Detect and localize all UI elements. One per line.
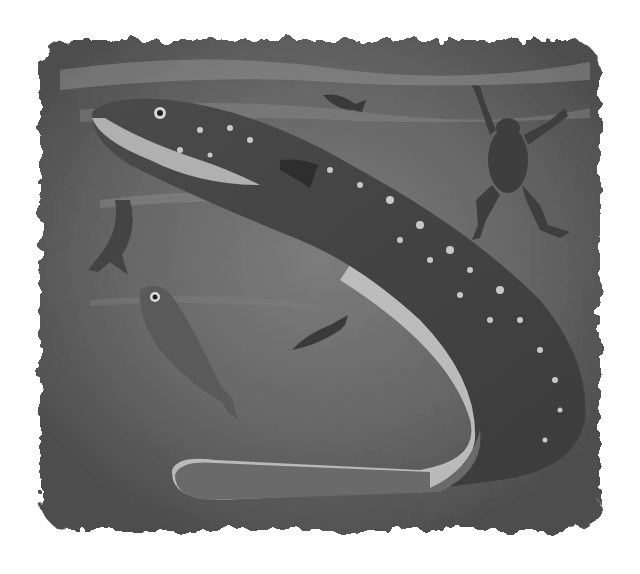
eel-illustration: [0, 0, 640, 574]
illustration: [0, 0, 640, 574]
